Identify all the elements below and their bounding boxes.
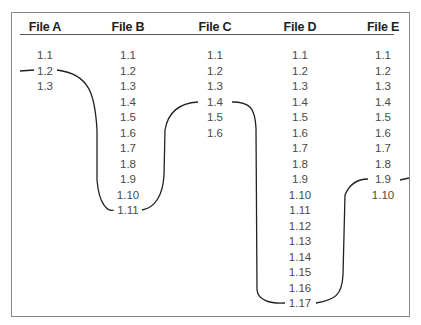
tag-line [0,0,421,325]
tag-curve [20,70,409,303]
